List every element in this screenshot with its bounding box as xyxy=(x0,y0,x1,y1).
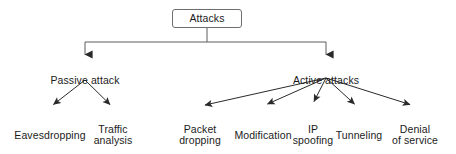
attacks-taxonomy-diagram: Attacks Passive attack Active attacks Ea… xyxy=(0,0,456,154)
node-denial-of-service-label: Denial of service xyxy=(392,123,438,147)
node-tunneling-label: Tunneling xyxy=(336,129,383,141)
node-traffic-analysis: Traffic analysis xyxy=(82,112,144,147)
node-attacks-box: Attacks xyxy=(172,9,242,28)
node-denial-of-service: Denial of service xyxy=(380,112,450,147)
node-passive-attack-label: Passive attack xyxy=(50,74,119,86)
node-passive-attack: Passive attack xyxy=(39,63,131,86)
node-active-attacks: Active attacks xyxy=(280,63,372,86)
node-packet-dropping-label: Packet dropping xyxy=(179,123,221,147)
node-traffic-analysis-label: Traffic analysis xyxy=(94,123,133,147)
node-attacks-label: Attacks xyxy=(189,13,224,25)
node-active-attacks-label: Active attacks xyxy=(293,74,359,86)
node-eavesdropping-label: Eavesdropping xyxy=(14,129,85,141)
